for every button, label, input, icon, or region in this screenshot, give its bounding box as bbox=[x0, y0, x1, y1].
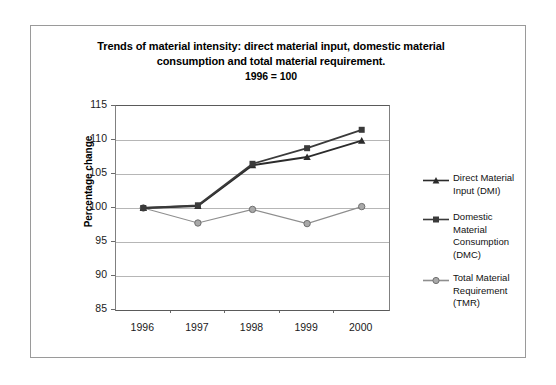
legend-entry-dmi[interactable]: Direct Material Input (DMI) bbox=[423, 172, 523, 197]
chart-title: Trends of material intensity: direct mat… bbox=[51, 39, 491, 84]
series-line bbox=[143, 141, 361, 208]
data-point-circle bbox=[359, 203, 365, 209]
series-plot bbox=[116, 106, 389, 310]
legend-label-dmc-line3: (DMC) bbox=[453, 249, 481, 260]
x-tick-label: 1997 bbox=[174, 321, 220, 333]
legend-label-tmr-line1: Total Material bbox=[453, 272, 510, 283]
data-point-square bbox=[359, 127, 365, 133]
chart-legend: Direct Material Input (DMI) Domestic Mat… bbox=[423, 172, 523, 321]
y-tick-label: 115 bbox=[81, 98, 107, 110]
y-tick-label: 90 bbox=[81, 268, 107, 280]
legend-entry-dmc[interactable]: Domestic Material Consumption (DMC) bbox=[423, 211, 523, 261]
legend-label-tmr-line3: (TMR) bbox=[453, 297, 480, 308]
legend-label-tmr: Total Material Requirement (TMR) bbox=[453, 272, 523, 310]
legend-label-dmc-line1: Domestic Material bbox=[453, 211, 493, 235]
chart-title-line-1: Trends of material intensity: direct mat… bbox=[51, 39, 491, 54]
series-line bbox=[143, 130, 361, 208]
data-point-square bbox=[140, 205, 146, 211]
triangle-marker-icon bbox=[423, 176, 449, 185]
chart-title-line-2: consumption and total material requireme… bbox=[51, 54, 491, 69]
legend-label-dmi-line1: Direct Material bbox=[453, 172, 514, 183]
chart-frame: Trends of material intensity: direct mat… bbox=[30, 25, 526, 358]
x-tick-label: 1998 bbox=[229, 321, 275, 333]
plot-area bbox=[115, 105, 390, 311]
x-tick-label: 1999 bbox=[283, 321, 329, 333]
data-point-square bbox=[250, 161, 256, 167]
y-tick-label: 100 bbox=[81, 200, 107, 212]
data-point-circle bbox=[304, 220, 310, 226]
square-marker-icon bbox=[423, 215, 449, 224]
circle-marker-icon bbox=[423, 276, 449, 285]
data-point-square bbox=[195, 202, 201, 208]
y-tick-label: 85 bbox=[81, 302, 107, 314]
legend-entry-tmr[interactable]: Total Material Requirement (TMR) bbox=[423, 272, 523, 310]
data-point-circle bbox=[249, 206, 255, 212]
legend-label-tmr-line2: Requirement bbox=[453, 285, 507, 296]
data-point-triangle bbox=[358, 137, 365, 144]
data-point-circle bbox=[195, 220, 201, 226]
y-tick-label: 95 bbox=[81, 234, 107, 246]
legend-label-dmc-line2: Consumption bbox=[453, 236, 509, 247]
legend-label-dmi-line2: Input (DMI) bbox=[453, 185, 501, 196]
legend-label-dmi: Direct Material Input (DMI) bbox=[453, 172, 523, 197]
chart-subtitle: 1996 = 100 bbox=[51, 69, 491, 84]
x-tick-label: 2000 bbox=[338, 321, 384, 333]
data-point-square bbox=[304, 145, 310, 151]
y-tick-label: 105 bbox=[81, 166, 107, 178]
legend-label-dmc: Domestic Material Consumption (DMC) bbox=[453, 211, 523, 261]
x-tick-label: 1996 bbox=[119, 321, 165, 333]
y-tick-label: 110 bbox=[81, 132, 107, 144]
